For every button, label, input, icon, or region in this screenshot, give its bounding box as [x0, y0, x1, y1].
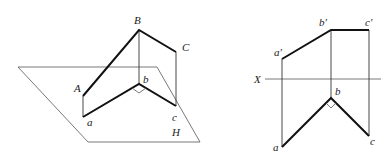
spatial-view: H B C A b a c: [18, 14, 200, 142]
right-angle-marker: [132, 88, 146, 93]
label-c: c: [172, 111, 177, 123]
space-polyline-ABC: [83, 30, 176, 96]
label-a-prime: a′: [274, 46, 283, 58]
label-b-prime: b′: [319, 16, 328, 28]
label-a-top: a: [273, 141, 279, 153]
front-polyline: [282, 30, 369, 59]
right-angle-marker-top: [326, 103, 336, 108]
label-b-top: b: [335, 85, 341, 97]
projection-polyline-abc: [83, 84, 176, 117]
top-polyline: [282, 98, 369, 147]
projection-diagram: H B C A b a c X a′ b′ c′ b: [0, 0, 392, 161]
label-x-axis: X: [253, 73, 262, 85]
label-B: B: [134, 14, 141, 26]
label-c-prime: c′: [365, 16, 373, 28]
label-A: A: [73, 82, 81, 94]
label-b: b: [143, 73, 149, 85]
label-h-plane: H: [171, 126, 181, 138]
label-C: C: [182, 41, 190, 53]
orthographic-view: X a′ b′ c′ b a c: [253, 16, 381, 153]
label-a: a: [87, 116, 93, 128]
label-c-top: c: [370, 135, 375, 147]
